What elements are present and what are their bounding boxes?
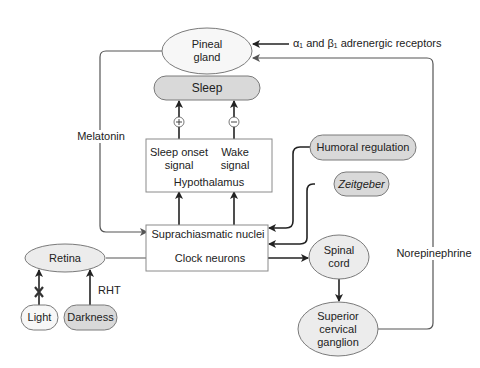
zeitgeber-label: Zeitgeber bbox=[334, 178, 389, 191]
light-label: Light bbox=[21, 311, 58, 324]
hypothalamus-label: Hypothalamus bbox=[146, 176, 272, 189]
spinal-cord-label: Spinalcord bbox=[309, 244, 369, 270]
receptors-label: α₁ and β₁ adrenergic receptors bbox=[293, 37, 442, 50]
clock-neurons-label: Clock neurons bbox=[165, 252, 255, 265]
scg-label: Superiorcervicalganglion bbox=[298, 310, 378, 349]
humoral-edge bbox=[269, 147, 310, 228]
melatonin-label: Melatonin bbox=[74, 130, 128, 143]
sleep-label: Sleep bbox=[154, 82, 260, 95]
retina-label: Retina bbox=[25, 252, 105, 265]
zeitgeber-edge bbox=[269, 184, 315, 244]
humoral-regulation-label: Humoral regulation bbox=[310, 141, 416, 154]
rht-label: RHT bbox=[98, 284, 121, 297]
pineal-gland-label: Pinealgland bbox=[182, 38, 232, 64]
darkness-label: Darkness bbox=[64, 311, 117, 324]
scn-label: Suprachiasmatic nuclei bbox=[148, 228, 268, 241]
wake-signal-label: Wakesignal bbox=[212, 146, 258, 172]
norepinephrine-label: Norepinephrine bbox=[395, 247, 473, 260]
sleep-onset-signal-label: Sleep onsetsignal bbox=[146, 146, 212, 172]
